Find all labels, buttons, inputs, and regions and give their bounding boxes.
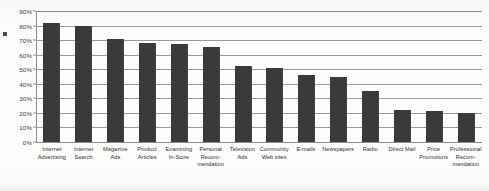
bar[interactable] (43, 23, 60, 142)
bar-slot (195, 11, 227, 142)
x-axis-label-line: Direct Mail (387, 146, 418, 154)
bar-slot (418, 11, 450, 142)
bar[interactable] (107, 39, 124, 142)
x-axis-label-line: Web sites (259, 154, 290, 162)
y-axis-tick-label: 20% (19, 109, 32, 116)
bar-slot (163, 11, 195, 142)
x-axis-label-line: Internet (68, 146, 99, 154)
bar[interactable] (362, 91, 379, 142)
x-axis-label-line: mendation (450, 161, 481, 169)
x-axis-label-line: Articles (132, 154, 163, 162)
x-axis-label: ExaminingIn-Store (163, 146, 195, 190)
x-axis-label-line: Search (68, 154, 99, 162)
x-axis-label-line: Television (227, 146, 258, 154)
page-edge-shadow (0, 185, 489, 191)
bar[interactable] (75, 26, 92, 142)
bar-slot (291, 11, 323, 142)
plot-area: 90%80%70%60%50%40%30%20%10%0% (36, 11, 482, 142)
y-axis-tick-label: 90% (19, 8, 32, 15)
x-axis-label-line: Ads (227, 154, 258, 162)
x-axis-label: Direct Mail (386, 146, 418, 190)
y-axis-tick-label: 60% (19, 51, 32, 58)
x-axis-label-line: Recom- (450, 154, 481, 162)
x-axis-label-line: Internet (37, 146, 68, 154)
x-axis-label-line: Ads (100, 154, 131, 162)
bar-slot (386, 11, 418, 142)
x-axis-label: InternetSearch (68, 146, 100, 190)
y-axis-tick-label: 0% (23, 139, 32, 146)
x-axis-label: PersonalRecom-mendation (195, 146, 227, 190)
x-axis-label-line: In-Store (164, 154, 195, 162)
y-axis-tick-label: 50% (19, 66, 32, 73)
x-axis-label: PricePromotions (418, 146, 450, 190)
bar-slot (132, 11, 164, 142)
bar[interactable] (235, 66, 252, 142)
y-axis-tick-label: 40% (19, 80, 32, 87)
x-axis-label-line: E-mails (291, 146, 322, 154)
x-axis-label: E-mails (290, 146, 322, 190)
bar-slot (355, 11, 387, 142)
x-axis-label-line: Recom- (195, 154, 226, 162)
bar-chart-figure: 90%80%70%60%50%40%30%20%10%0% InternetAd… (0, 0, 489, 191)
bar-slot (227, 11, 259, 142)
bar-slot (36, 11, 68, 142)
y-axis-tick-label: 10% (19, 124, 32, 131)
bars-group (36, 11, 482, 142)
bar[interactable] (266, 68, 283, 142)
bar-slot (100, 11, 132, 142)
y-axis-tick-label: 30% (19, 95, 32, 102)
x-axis-label-line: Personal (195, 146, 226, 154)
x-axis-label-line: Examining (164, 146, 195, 154)
x-axis-label: InternetAdvertising (36, 146, 68, 190)
x-axis-label-line: mendation (195, 161, 226, 169)
bar-slot (323, 11, 355, 142)
x-axis-label-line: Product (132, 146, 163, 154)
x-axis-label: Radio (354, 146, 386, 190)
x-axis-label-line: Magazine (100, 146, 131, 154)
bar-slot (450, 11, 482, 142)
x-axis-labels: InternetAdvertisingInternetSearchMagazin… (36, 146, 482, 190)
x-axis-label: ProfessionalRecom-mendation (450, 146, 482, 190)
bar[interactable] (298, 75, 315, 142)
x-axis-label: Newspapers (322, 146, 355, 190)
bar[interactable] (171, 44, 188, 142)
x-axis-label: CommunityWeb sites (258, 146, 290, 190)
bar[interactable] (139, 43, 156, 142)
bar[interactable] (203, 47, 220, 142)
bar[interactable] (330, 77, 347, 143)
x-axis-label-line: Community (259, 146, 290, 154)
bar[interactable] (426, 111, 443, 142)
y-axis-tick-label: 70% (19, 37, 32, 44)
x-axis-label-line: Newspapers (322, 146, 354, 154)
x-axis-baseline (36, 142, 482, 143)
x-axis-label: TelevisionAds (227, 146, 259, 190)
x-axis-label-line: Promotions (418, 154, 449, 162)
x-axis-label-line: Professional (450, 146, 481, 154)
x-axis-label: MagazineAds (100, 146, 132, 190)
x-axis-label-line: Advertising (37, 154, 68, 162)
y-axis-tick-label: 80% (19, 22, 32, 29)
bar[interactable] (458, 113, 475, 142)
x-axis-label-line: Price (418, 146, 449, 154)
scan-artifact-mark (3, 32, 7, 36)
bar-slot (259, 11, 291, 142)
x-axis-label: ProductArticles (131, 146, 163, 190)
bar-slot (68, 11, 100, 142)
x-axis-label-line: Radio (355, 146, 386, 154)
bar[interactable] (394, 110, 411, 142)
